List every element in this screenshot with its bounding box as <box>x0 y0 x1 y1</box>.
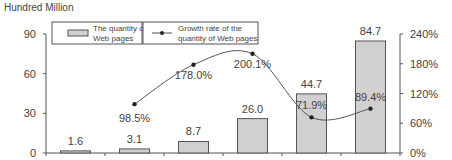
legend-line-label-line2: quantity of Web pages <box>178 34 257 43</box>
left-tick-label: 90 <box>24 28 36 40</box>
growth-value-label: 200.1% <box>234 58 272 70</box>
growth-value-label: 71.9% <box>296 99 327 111</box>
right-tick-label: 120% <box>410 88 438 100</box>
legend-line-marker <box>160 31 164 35</box>
chart: 03060900%60%120%180%240%1.63.18.726.044.… <box>0 0 452 160</box>
growth-point <box>132 102 136 106</box>
left-tick-label: 30 <box>24 107 36 119</box>
growth-point <box>250 52 254 56</box>
bar-value-label: 44.7 <box>301 78 322 90</box>
growth-value-label: 178.0% <box>175 69 213 81</box>
bar-value-label: 3.1 <box>127 133 142 145</box>
growth-point <box>191 63 195 67</box>
bar-value-label: 26.0 <box>242 103 263 115</box>
legend-line-label-line1: Growth rate of the <box>178 24 243 33</box>
growth-value-label: 98.5% <box>119 112 150 124</box>
legend-bar-label-line1: The quantity of <box>93 24 147 33</box>
bar <box>120 149 150 153</box>
right-tick-label: 60% <box>410 117 432 129</box>
legend-bar-swatch <box>68 30 88 36</box>
right-tick-label: 240% <box>410 28 438 40</box>
bar-value-label: 1.6 <box>68 135 83 147</box>
right-tick-label: 0% <box>410 147 426 159</box>
bar <box>238 119 268 153</box>
growth-value-label: 89.4% <box>355 91 386 103</box>
legend-bar-label-line2: Web pages <box>93 34 133 43</box>
bar <box>179 141 209 153</box>
left-tick-label: 60 <box>24 68 36 80</box>
growth-point <box>309 115 313 119</box>
right-tick-label: 180% <box>410 58 438 70</box>
bar <box>61 151 91 153</box>
left-tick-label: 0 <box>30 147 36 159</box>
growth-point <box>368 106 372 110</box>
bar-value-label: 84.7 <box>360 25 381 37</box>
bar-value-label: 8.7 <box>186 125 201 137</box>
